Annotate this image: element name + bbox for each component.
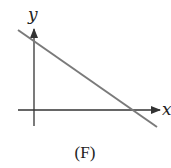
graph-line — [18, 30, 157, 127]
graph-figure: y x (F) — [0, 0, 171, 168]
figure-caption: (F) — [75, 143, 96, 162]
x-axis-label: x — [162, 99, 171, 119]
y-axis-label: y — [27, 4, 38, 24]
